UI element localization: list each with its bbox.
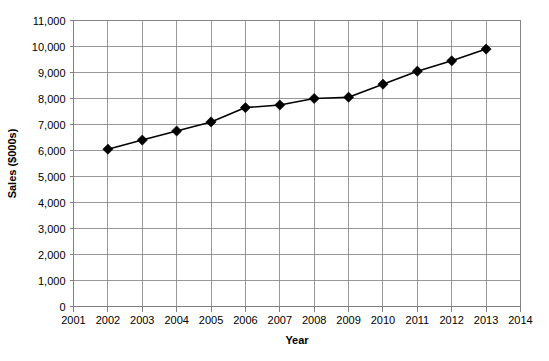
x-tick-label-2005: 2005 [199,314,223,326]
x-tick-label-2010: 2010 [371,314,395,326]
x-tick-label-2003: 2003 [130,314,154,326]
y-axis-title: Sales ($000s) [6,128,18,198]
x-tick-label-2002: 2002 [96,314,120,326]
x-tick-label-2006: 2006 [233,314,257,326]
y-tick-label-1000: 1,000 [38,275,66,287]
x-tick-label-2001: 2001 [61,314,85,326]
y-tick-label-9000: 9,000 [38,67,66,79]
y-tick-label-10000: 10,000 [32,41,66,53]
x-tick-label-2011: 2011 [406,314,430,326]
line-chart: 01,0002,0003,0004,0005,0006,0007,0008,00… [0,0,549,361]
x-tick-label-2009: 2009 [336,314,360,326]
x-tick-label-2014: 2014 [508,314,532,326]
x-tick-label-2007: 2007 [268,314,292,326]
chart-container: 01,0002,0003,0004,0005,0006,0007,0008,00… [0,0,549,361]
x-tick-label-2004: 2004 [164,314,188,326]
y-tick-label-0: 0 [59,301,65,313]
y-tick-label-11000: 11,000 [33,15,66,27]
y-tick-label-7000: 7,000 [38,119,66,131]
y-tick-label-6000: 6,000 [38,145,66,157]
y-tick-label-4000: 4,000 [38,197,66,209]
y-tick-label-3000: 3,000 [38,223,66,235]
x-tick-label-2013: 2013 [474,314,498,326]
y-tick-label-2000: 2,000 [38,249,66,261]
x-tick-label-2008: 2008 [302,314,326,326]
y-tick-label-5000: 5,000 [38,171,66,183]
x-axis-title: Year [285,334,309,346]
x-tick-label-2012: 2012 [439,314,463,326]
y-tick-label-8000: 8,000 [38,93,66,105]
